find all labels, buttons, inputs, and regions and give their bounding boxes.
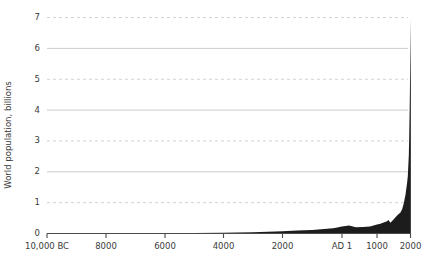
- series-area-group: [47, 19, 411, 234]
- x-tick-label-5: AD 1: [332, 241, 352, 251]
- x-tick-label-7: 2000: [400, 241, 422, 251]
- x-tick-label-6: 1000: [366, 241, 388, 251]
- chart-canvas: 01234567 10,000 BC8000600040002000AD 110…: [0, 0, 426, 268]
- x-tick-label-1: 8000: [95, 241, 117, 251]
- y-tick-label-2: 2: [35, 166, 40, 176]
- world-population-chart: 01234567 10,000 BC8000600040002000AD 110…: [0, 0, 426, 268]
- x-tick-label-0: 10,000 BC: [25, 241, 69, 251]
- y-tick-label-3: 3: [35, 135, 40, 145]
- y-tick-label-4: 4: [35, 105, 40, 115]
- y-axis-tick-labels: 01234567: [35, 12, 40, 238]
- world-population-area: [47, 19, 411, 234]
- x-tick-label-4: 2000: [272, 241, 294, 251]
- y-tick-label-0: 0: [35, 228, 40, 238]
- y-tick-label-1: 1: [35, 197, 40, 207]
- y-tick-label-5: 5: [35, 74, 40, 84]
- x-tick-label-2: 6000: [154, 241, 176, 251]
- y-axis-title: World population, billions: [3, 81, 13, 189]
- x-axis-tick-labels: 10,000 BC8000600040002000AD 110002000: [25, 241, 421, 251]
- x-tick-label-3: 4000: [213, 241, 235, 251]
- axis-group: [47, 234, 411, 239]
- x-axis-ticks: [47, 234, 411, 239]
- gridlines-group: [47, 18, 408, 203]
- y-tick-label-6: 6: [35, 43, 40, 53]
- y-tick-label-7: 7: [35, 12, 40, 22]
